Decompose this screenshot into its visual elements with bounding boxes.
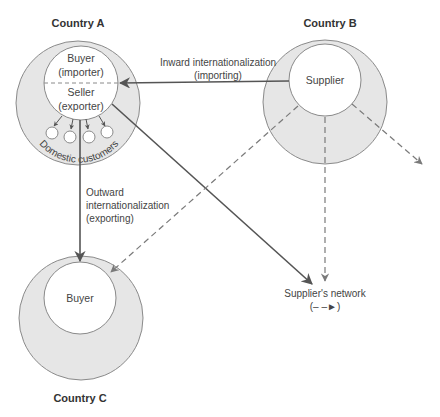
suppliers-network-legend: (– –►): [310, 301, 340, 312]
internationalization-diagram: Country A Buyer (importer) Seller (expor…: [0, 0, 440, 417]
buyer-label: Buyer: [67, 52, 95, 64]
exporting-label: (exporting): [86, 213, 134, 224]
domestic-customer-2: [64, 131, 76, 143]
supplier-label: Supplier: [306, 74, 345, 86]
country-b-title: Country B: [303, 17, 356, 29]
exporter-label: (exporter): [58, 100, 104, 112]
country-a: Country A Buyer (importer) Seller (expor…: [16, 17, 140, 165]
inward-arrow: [120, 81, 289, 83]
inward-label: Inward internationalization: [160, 57, 276, 68]
domestic-customer-4: [101, 126, 113, 138]
country-c: Buyer Country C: [19, 256, 143, 404]
importer-label: (importer): [58, 66, 104, 78]
importing-label: (importing): [194, 70, 242, 81]
buyer-c-label: Buyer: [66, 292, 94, 304]
country-a-title: Country A: [52, 17, 105, 29]
seller-label: Seller: [68, 86, 95, 98]
domestic-customer-1: [46, 127, 58, 139]
outward-label: Outward: [86, 187, 124, 198]
internationalization-label: internationalization: [86, 200, 169, 211]
suppliers-network-label: Supplier's network: [284, 288, 366, 299]
domestic-customer-3: [83, 131, 95, 143]
country-c-title: Country C: [53, 392, 106, 404]
